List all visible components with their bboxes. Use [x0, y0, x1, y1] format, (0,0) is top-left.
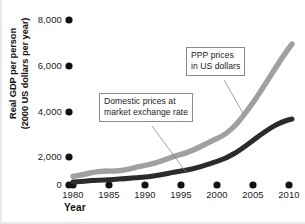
- y-axis-title-line1: Real GDP per person: [8, 28, 18, 119]
- y-tick-label-2000: 2,000: [14, 151, 62, 162]
- annotation-domestic-prices: Domestic prices atmarket exchange rate: [99, 93, 193, 122]
- leader-line-ppp: [224, 80, 244, 115]
- x-tick-label-1995: 1995: [163, 189, 199, 200]
- annotation-ppp-line2: in US dollars: [191, 61, 240, 71]
- x-tick-label-1985: 1985: [91, 189, 127, 200]
- annotation-ppp-prices: PPP pricesin US dollars: [186, 47, 245, 76]
- x-tick-label-1980: 1980: [55, 189, 91, 200]
- annotation-domestic-line1: Domestic prices at: [104, 96, 176, 106]
- x-axis-tick-markers: [69, 181, 292, 188]
- y-axis-title-line2: (2000 US dollars per year): [19, 18, 29, 130]
- x-axis-title: Year: [64, 202, 86, 213]
- x-tick-label-2005: 2005: [235, 189, 271, 200]
- x-tick-label-2010: 2010: [271, 189, 305, 200]
- x-tick-label-1990: 1990: [127, 189, 163, 200]
- annotation-ppp-line1: PPP prices: [191, 50, 234, 60]
- annotation-domestic-line2: market exchange rate: [104, 107, 188, 117]
- x-tick-label-2000: 2000: [199, 189, 235, 200]
- chart-figure: 8,000 6,000 4,000 2,000 0 1980 1985 1990…: [0, 0, 305, 224]
- y-axis-tick-markers: [65, 16, 72, 188]
- y-axis-title: Real GDP per person(2000 US dollars per …: [8, 0, 31, 149]
